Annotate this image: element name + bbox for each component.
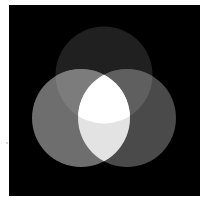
scan-artifact — [6, 142, 8, 144]
venn-diagram — [0, 0, 210, 200]
